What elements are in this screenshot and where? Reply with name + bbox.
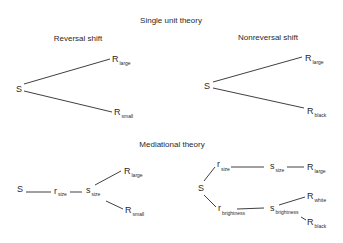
med-left-response-small: Rsmall — [125, 205, 144, 217]
nonreversal-shift-title: Nonreversal shift — [238, 33, 299, 42]
reversal-stimulus: S — [16, 84, 22, 94]
mediational-right-chain: S rsize ssize Rlarge rbrightness sbright… — [198, 159, 327, 229]
med-left-s-size: ssize — [86, 185, 101, 197]
reversal-shift-panel: Reversal shift S Rlarge Rsmall — [16, 34, 133, 119]
nonreversal-stimulus: S — [204, 81, 210, 91]
med-right-s-size: ssize — [270, 161, 285, 173]
nonreversal-shift-panel: Nonreversal shift S Rlarge Rblack — [204, 33, 327, 118]
med-right-edge-white — [279, 197, 305, 205]
nonreversal-response-black: Rblack — [307, 106, 327, 118]
med-right-edge-rbright-sbright — [237, 208, 264, 209]
reversal-edge-small — [24, 91, 112, 112]
med-left-edge-small — [106, 201, 123, 209]
med-right-response-black: Rblack — [307, 217, 327, 229]
reversal-edge-large — [24, 59, 110, 84]
mediational-title: Mediational theory — [139, 140, 204, 149]
theory-diagram: Single unit theory Reversal shift S Rlar… — [0, 0, 343, 243]
med-left-stimulus: S — [17, 184, 23, 194]
med-left-edge-large — [95, 171, 121, 185]
reversal-response-large: Rlarge — [112, 54, 131, 66]
mediational-left-chain: S rsize ssize Rlarge Rsmall — [17, 166, 144, 217]
med-right-edge-black — [301, 217, 306, 220]
nonreversal-response-large: Rlarge — [305, 53, 324, 65]
med-right-response-white: Rwhite — [307, 191, 326, 203]
reversal-response-small: Rsmall — [114, 107, 133, 119]
med-right-stimulus: S — [198, 183, 204, 193]
nonreversal-edge-large — [213, 57, 302, 82]
reversal-shift-title: Reversal shift — [54, 34, 103, 43]
med-right-edge-s-rbright — [204, 195, 216, 207]
med-right-response-large: Rlarge — [307, 162, 326, 174]
med-left-response-large: Rlarge — [124, 166, 143, 178]
med-right-r-brightness: rbrightness — [218, 203, 246, 216]
med-right-s-brightness: sbrightness — [270, 203, 299, 215]
nonreversal-edge-black — [213, 88, 304, 108]
single-unit-title: Single unit theory — [140, 16, 202, 25]
med-right-edge-s-rsize — [204, 167, 215, 181]
med-right-r-size: rsize — [217, 159, 230, 172]
med-left-r-size: rsize — [54, 186, 67, 197]
